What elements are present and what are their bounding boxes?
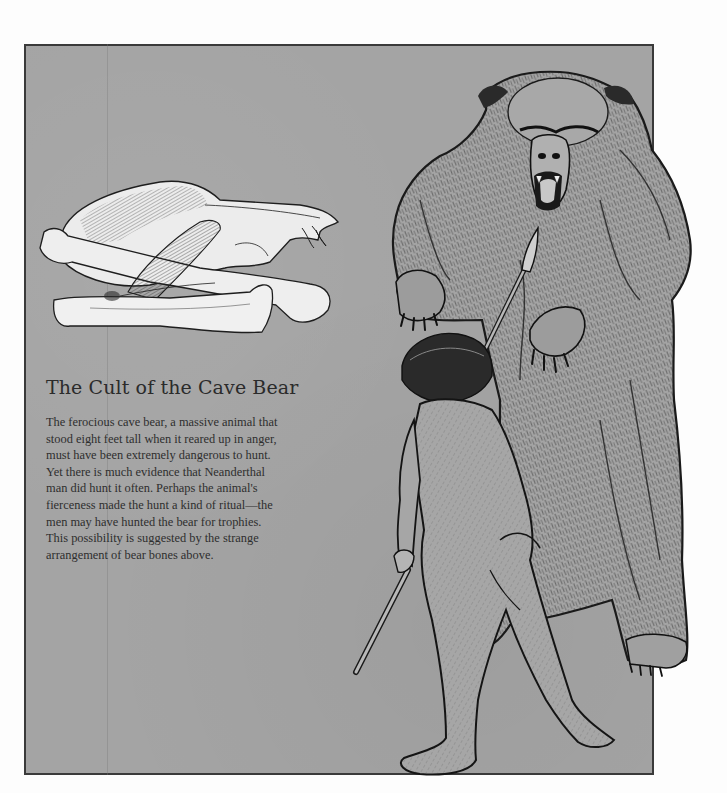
article-line: stood eight feet tall when it reared up … bbox=[46, 431, 346, 448]
article-body: The ferocious cave bear, a massive anima… bbox=[46, 414, 346, 563]
article-line: man did hunt it often. Perhaps the anima… bbox=[46, 480, 346, 497]
article-line: The ferocious cave bear, a massive anima… bbox=[46, 414, 346, 431]
book-page: The Cult of the Cave Bear The ferocious … bbox=[0, 0, 727, 793]
article-line: Yet there is much evidence that Neandert… bbox=[46, 464, 346, 481]
article-line: arrangement of bear bones above. bbox=[46, 547, 346, 564]
bear-bones-illustration bbox=[40, 181, 338, 332]
article-title: The Cult of the Cave Bear bbox=[46, 376, 298, 398]
article-line: This possibility is suggested by the str… bbox=[46, 530, 346, 547]
article-line: must have been extremely dangerous to hu… bbox=[46, 447, 346, 464]
article-line: men may have hunted the bear for trophie… bbox=[46, 514, 346, 531]
article-line: fierceness made the hunt a kind of ritua… bbox=[46, 497, 346, 514]
